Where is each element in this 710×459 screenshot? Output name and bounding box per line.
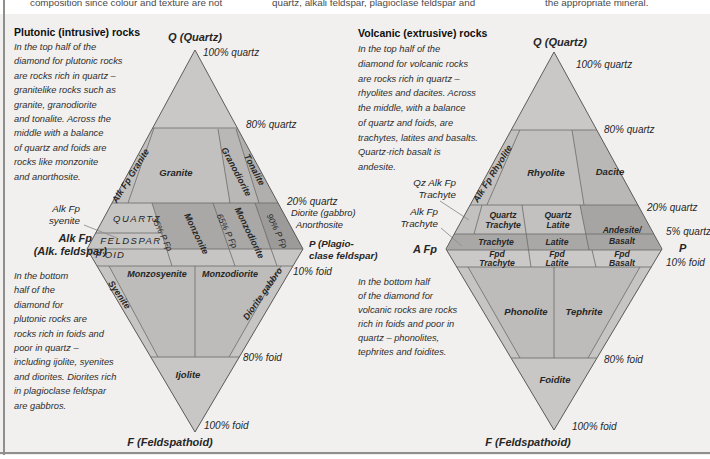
- volcanic-outro-line-2: of the diamond for: [358, 292, 433, 301]
- textbook-figure-page: composition since colour and texture are…: [0, 0, 710, 459]
- volcanic-outro-line-1: In the bottom half: [358, 278, 430, 287]
- volcanic-10-foid-label: 10% foid: [666, 258, 705, 268]
- field-alk-fp-rhyolite: Alk Fp Rhyolite: [472, 144, 514, 204]
- field-quartz-latite-1: Quartz: [544, 211, 571, 220]
- volcanic-intro-line-5: the middle, with a balance: [358, 104, 466, 113]
- field-dacite: Dacite: [596, 167, 625, 177]
- volcanic-80-foid-label: 80% foid: [604, 355, 643, 365]
- volcanic-q-vertex-label: Q (Quartz): [533, 37, 587, 48]
- field-phonolite: Phonolite: [504, 307, 547, 317]
- volcanic-intro-line-2: diamond for volcanic rocks: [358, 60, 468, 69]
- volcanic-intro-line-3: are rocks rich in quartz –: [358, 75, 460, 84]
- volcanic-heading: Volcanic (extrusive) rocks: [358, 28, 487, 39]
- volcanic-intro-line-4: rhyolites and dacites. Across: [358, 90, 476, 99]
- volcanic-qz-alk-fp-callout-2: Trachyte: [419, 190, 456, 200]
- volcanic-outro-line-3: volcanic rocks are rocks: [358, 306, 457, 315]
- field-quartz-latite-2: Latite: [547, 221, 570, 230]
- page-bottom-rule: [0, 452, 710, 454]
- field-trachyte: Trachyte: [478, 238, 514, 247]
- field-andesite-basalt-1: Andesite/: [603, 226, 642, 235]
- field-fpd-latite-2: Latite: [546, 258, 569, 267]
- page-left-rule: [3, 0, 5, 455]
- field-fpd-basalt-2: Basalt: [609, 258, 635, 267]
- volcanic-alk-fp-callout-1: Alk Fp: [410, 207, 438, 217]
- volcanic-intro-line-9: andesite.: [358, 163, 396, 172]
- page-bottom-margin: [0, 455, 710, 459]
- field-andesite-basalt-2: Basalt: [609, 237, 635, 246]
- volcanic-outro-line-5: quartz – phonolites,: [358, 334, 439, 343]
- field-quartz-trachyte-2: Trachyte: [485, 221, 521, 230]
- field-quartz-trachyte-1: Quartz: [489, 211, 516, 220]
- volcanic-f-vertex-label: F (Feldspathoid): [485, 437, 571, 448]
- volcanic-intro-line-7: trachytes, latites and basalts.: [358, 134, 478, 143]
- volcanic-intro-line-1: In the top half of the: [358, 45, 440, 54]
- volcanic-diagram-texts: Volcanic (extrusive) rocksIn the top hal…: [0, 0, 710, 459]
- volcanic-alk-fp-callout-2: Trachyte: [401, 219, 438, 229]
- field-tephrite: Tephrite: [565, 307, 602, 317]
- field-rhyolite: Rhyolite: [527, 168, 564, 178]
- volcanic-p-vertex-label: P: [679, 243, 686, 254]
- volcanic-80-quartz-label: 80% quartz: [604, 125, 655, 135]
- volcanic-qz-alk-fp-callout-1: Qz Alk Fp: [413, 178, 456, 188]
- field-foidite: Foidite: [539, 375, 570, 385]
- volcanic-outro-line-4: rich in foids and poor in: [358, 320, 454, 329]
- field-fpd-trachyte-2: Trachyte: [479, 258, 515, 267]
- volcanic-100-quartz-label: 100% quartz: [576, 60, 632, 70]
- volcanic-intro-line-8: Quartz-rich basalt is: [358, 149, 441, 158]
- volcanic-100-foid-label: 100% foid: [572, 422, 616, 432]
- volcanic-outro-line-6: tephrites and foidites.: [358, 348, 446, 357]
- volcanic-5-quartz-label: 5% quartz: [666, 227, 710, 237]
- volcanic-20-quartz-label: 20% quartz: [647, 203, 698, 213]
- volcanic-intro-line-6: of quartz and foids, are: [358, 119, 453, 128]
- volcanic-a-vertex-label: A Fp: [413, 244, 437, 255]
- field-latite: Latite: [546, 238, 569, 247]
